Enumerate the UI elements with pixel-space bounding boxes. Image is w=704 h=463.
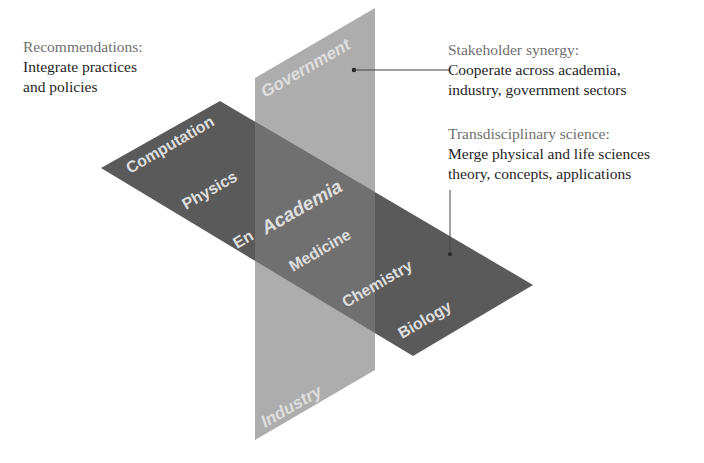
transdisciplinary-heading: Transdisciplinary science: [448, 124, 650, 144]
stakeholder-synergy-line-1: Cooperate across academia, [448, 60, 627, 80]
recommendations-annotation: Recommendations: Integrate practices and… [23, 37, 143, 97]
recommendations-heading: Recommendations: [23, 37, 143, 57]
diagram-canvas: Government Industry Computation Physics … [0, 0, 704, 463]
transdisciplinary-line-2: theory, concepts, applications [448, 164, 650, 184]
stakeholder-synergy-line-2: industry, government sectors [448, 80, 627, 100]
recommendations-line-2: and policies [23, 77, 143, 97]
recommendations-line-1: Integrate practices [23, 57, 143, 77]
stakeholder-synergy-annotation: Stakeholder synergy: Cooperate across ac… [448, 40, 627, 100]
stakeholder-synergy-heading: Stakeholder synergy: [448, 40, 627, 60]
transdisciplinary-science-annotation: Transdisciplinary science: Merge physica… [448, 124, 650, 184]
transdisciplinary-line-1: Merge physical and life sciences [448, 144, 650, 164]
